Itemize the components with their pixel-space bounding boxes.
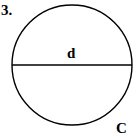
circle-diagram: 3. d C: [0, 0, 137, 135]
circumference-label: C: [116, 120, 127, 135]
diameter-label: d: [67, 45, 76, 61]
problem-number: 3.: [1, 2, 13, 18]
